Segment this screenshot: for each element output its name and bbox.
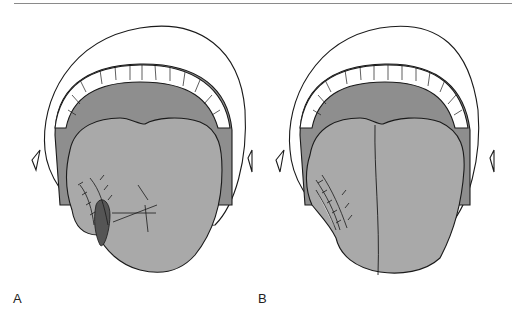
panel-label-a: A [13,291,22,306]
panel-a-illustration [32,26,252,272]
figure-illustration [0,0,512,324]
panel-b-illustration [276,26,494,275]
panel-label-b: B [258,291,267,306]
